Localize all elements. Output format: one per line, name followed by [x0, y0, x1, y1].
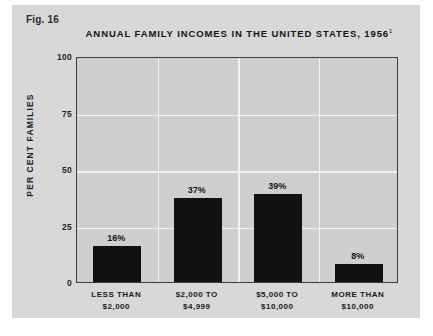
y-axis-title: PER CENT FAMILIES: [25, 75, 35, 215]
gridline-vertical: [238, 58, 240, 282]
bar-value-label: 16%: [76, 233, 157, 243]
y-axis-tick-label: 25: [46, 222, 72, 232]
y-axis-tick-label: 75: [46, 109, 72, 119]
bar: [93, 246, 141, 282]
x-axis-category-label: MORE THAN$10,000: [318, 289, 399, 312]
chart-title: ANNUAL FAMILY INCOMES IN THE UNITED STAT…: [64, 28, 414, 39]
chart-title-text: ANNUAL FAMILY INCOMES IN THE UNITED STAT…: [86, 28, 389, 39]
bar-value-label: 8%: [318, 251, 399, 261]
x-axis-category-label: $5,000 TO$10,000: [237, 289, 318, 312]
gridline-horizontal: [77, 228, 397, 230]
gridline-vertical: [319, 58, 321, 282]
bar-value-label: 37%: [157, 185, 238, 195]
bar: [174, 198, 222, 282]
x-axis-category-label: $2,000 TO$4,999: [157, 289, 238, 312]
y-axis-tick-label: 100: [46, 52, 72, 62]
bar-value-label: 39%: [237, 181, 318, 191]
gridline-vertical: [158, 58, 160, 282]
y-axis-tick-labels: 0255075100: [42, 57, 72, 283]
bar: [335, 264, 383, 282]
title-footnote-marker: 1: [389, 28, 392, 34]
y-axis-tick-label: 50: [46, 165, 72, 175]
figure-number-label: Fig. 16: [26, 14, 59, 25]
gridline-horizontal: [77, 171, 397, 173]
plot-area: [76, 57, 398, 283]
x-axis-category-label: LESS THAN$2,000: [76, 289, 157, 312]
figure-panel: Fig. 16 ANNUAL FAMILY INCOMES IN THE UNI…: [12, 5, 420, 318]
bar: [254, 194, 302, 282]
y-axis-tick-label: 0: [46, 278, 72, 288]
gridline-horizontal: [77, 115, 397, 117]
